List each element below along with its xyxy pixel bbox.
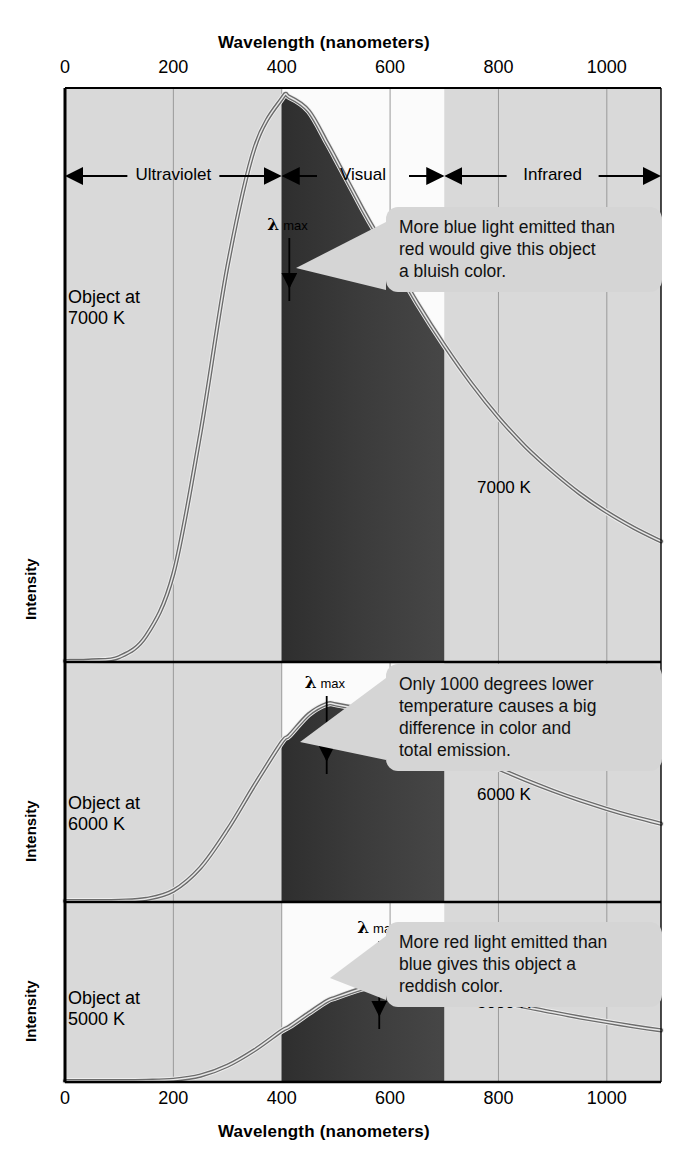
blackbody-radiation-figure: Wavelength (nanometers) Wavelength (nano…	[0, 0, 697, 1172]
panel-5000k-callout: More red light emitted than blue gives t…	[386, 922, 662, 1007]
bottom-axis-tick-200: 200	[158, 1088, 188, 1109]
bottom-axis-tick-600: 600	[375, 1088, 405, 1109]
panel-7000k-lambda-max-label: λ max	[267, 214, 307, 234]
panel-6000k-lambda-max-label: λ max	[305, 672, 345, 692]
top-axis-tick-600: 600	[375, 57, 405, 78]
y-axis-label-0: Intensity	[22, 558, 39, 620]
panel-6000k-object-label: Object at 6000 K	[68, 793, 140, 835]
region-label-visual: Visual	[340, 165, 386, 185]
panel-6000k-curve-label: 6000 K	[477, 785, 531, 805]
bottom-axis-tick-0: 0	[60, 1088, 70, 1109]
top-axis-tick-400: 400	[267, 57, 297, 78]
top-axis-tick-200: 200	[158, 57, 188, 78]
bottom-axis-tick-400: 400	[267, 1088, 297, 1109]
panel-5000k-object-label: Object at 5000 K	[68, 988, 140, 1030]
top-axis-tick-1000: 1000	[587, 57, 627, 78]
panel-7000k-callout: More blue light emitted than red would g…	[386, 207, 662, 292]
bottom-axis-tick-1000: 1000	[587, 1088, 627, 1109]
top-axis-tick-800: 800	[483, 57, 513, 78]
panel-7000k-curve-label: 7000 K	[477, 478, 531, 498]
region-label-infrared: Infrared	[523, 165, 582, 185]
y-axis-label-2: Intensity	[22, 980, 39, 1042]
top-axis-tick-0: 0	[60, 57, 70, 78]
region-label-ultraviolet: Ultraviolet	[136, 165, 212, 185]
y-axis-label-1: Intensity	[22, 800, 39, 862]
panel-7000k-object-label: Object at 7000 K	[68, 287, 140, 329]
bottom-axis-tick-800: 800	[483, 1088, 513, 1109]
panel-6000k-callout: Only 1000 degrees lower temperature caus…	[386, 664, 662, 771]
